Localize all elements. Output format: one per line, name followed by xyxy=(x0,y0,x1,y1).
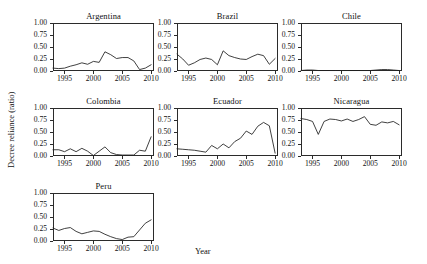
xtick-label-nicaragua-0: 1995 xyxy=(299,160,327,168)
xtick-label-colombia-2: 2005 xyxy=(108,160,136,168)
ytick-label-chile-2: 0.50 xyxy=(261,43,295,51)
ytick-label-argentina-0: 0.00 xyxy=(13,67,47,75)
ytick-label-colombia-2: 0.50 xyxy=(13,128,47,136)
ytick-label-brazil-0: 0.00 xyxy=(137,67,171,75)
ytick-label-chile-0: 0.00 xyxy=(261,67,295,75)
xtick-label-colombia-0: 1995 xyxy=(51,160,79,168)
xtick-label-nicaragua-1: 2000 xyxy=(327,160,355,168)
ytick-label-argentina-3: 0.75 xyxy=(13,31,47,39)
ytick-label-nicaragua-0: 0.00 xyxy=(261,152,295,160)
series-line-nicaragua xyxy=(301,108,402,156)
xtick-label-peru-2: 2005 xyxy=(108,245,136,253)
ytick-label-chile-1: 0.25 xyxy=(261,55,295,63)
xtick-label-brazil-1: 2000 xyxy=(203,75,231,83)
xtick-label-nicaragua-3: 2010 xyxy=(385,160,413,168)
xtick-label-nicaragua-2: 2005 xyxy=(356,160,384,168)
xtick-label-colombia-1: 2000 xyxy=(79,160,107,168)
xtick-label-argentina-0: 1995 xyxy=(51,75,79,83)
panel-title-chile: Chile xyxy=(301,11,402,21)
xtick-label-peru-1: 2000 xyxy=(79,245,107,253)
ytick-label-argentina-1: 0.25 xyxy=(13,55,47,63)
xtick-label-argentina-1: 2000 xyxy=(79,75,107,83)
ytick-label-peru-0: 0.00 xyxy=(13,237,47,245)
ytick-label-nicaragua-3: 0.75 xyxy=(261,116,295,124)
xtick-label-ecuador-2: 2005 xyxy=(232,160,260,168)
ytick-label-peru-1: 0.25 xyxy=(13,225,47,233)
ytick-label-ecuador-2: 0.50 xyxy=(137,128,171,136)
xtick-label-chile-0: 1995 xyxy=(299,75,327,83)
multi-panel-line-chart-figure: Argentina0.000.250.500.751.0019952000200… xyxy=(0,0,427,264)
ytick-label-brazil-3: 0.75 xyxy=(137,31,171,39)
ytick-label-colombia-3: 0.75 xyxy=(13,116,47,124)
ytick-label-argentina-4: 1.00 xyxy=(13,19,47,27)
ytick-label-ecuador-0: 0.00 xyxy=(137,152,171,160)
xtick-label-brazil-0: 1995 xyxy=(175,75,203,83)
ytick-label-nicaragua-4: 1.00 xyxy=(261,104,295,112)
ytick-label-peru-4: 1.00 xyxy=(13,189,47,197)
ytick-label-argentina-2: 0.50 xyxy=(13,43,47,51)
xtick-label-peru-3: 2010 xyxy=(137,245,165,253)
xtick-label-chile-2: 2005 xyxy=(356,75,384,83)
series-line-peru xyxy=(53,193,154,241)
xtick-label-ecuador-0: 1995 xyxy=(175,160,203,168)
series-line-chile xyxy=(301,23,402,71)
panel-nicaragua: Nicaragua0.000.250.500.751.0019952000200… xyxy=(261,96,408,170)
ytick-label-nicaragua-1: 0.25 xyxy=(261,140,295,148)
ytick-label-brazil-4: 1.00 xyxy=(137,19,171,27)
xtick-label-ecuador-1: 2000 xyxy=(203,160,231,168)
panel-title-nicaragua: Nicaragua xyxy=(301,96,402,106)
xtick-label-peru-0: 1995 xyxy=(51,245,79,253)
ytick-label-ecuador-4: 1.00 xyxy=(137,104,171,112)
x-axis-label: Year xyxy=(195,246,211,256)
xtick-label-chile-3: 2010 xyxy=(385,75,413,83)
ytick-label-colombia-1: 0.25 xyxy=(13,140,47,148)
ytick-label-ecuador-1: 0.25 xyxy=(137,140,171,148)
panel-title-peru: Peru xyxy=(53,181,154,191)
ytick-label-chile-3: 0.75 xyxy=(261,31,295,39)
ytick-label-ecuador-3: 0.75 xyxy=(137,116,171,124)
ytick-label-colombia-0: 0.00 xyxy=(13,152,47,160)
panel-chile: Chile0.000.250.500.751.00199520002005201… xyxy=(261,11,408,85)
ytick-label-brazil-2: 0.50 xyxy=(137,43,171,51)
xtick-label-argentina-2: 2005 xyxy=(108,75,136,83)
ytick-label-chile-4: 1.00 xyxy=(261,19,295,27)
ytick-label-peru-3: 0.75 xyxy=(13,201,47,209)
ytick-label-nicaragua-2: 0.50 xyxy=(261,128,295,136)
xtick-label-brazil-2: 2005 xyxy=(232,75,260,83)
ytick-label-brazil-1: 0.25 xyxy=(137,55,171,63)
ytick-label-colombia-4: 1.00 xyxy=(13,104,47,112)
xtick-label-chile-1: 2000 xyxy=(327,75,355,83)
y-axis-label: Decree reliance (ratio) xyxy=(6,92,16,168)
panel-peru: Peru0.000.250.500.751.001995200020052010 xyxy=(13,181,160,255)
ytick-label-peru-2: 0.50 xyxy=(13,213,47,221)
